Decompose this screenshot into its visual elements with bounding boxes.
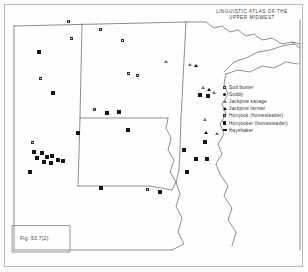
map-marker-filled-square: [45, 155, 48, 158]
map-marker-open-square: [99, 28, 102, 31]
map-marker-filled-square: [158, 190, 161, 193]
map-marker-open-square: [67, 20, 70, 23]
map-marker-filled-square: [35, 156, 38, 159]
map-marker-filled-triangle: [204, 131, 208, 134]
map-marker-filled-square: [76, 131, 79, 134]
northern-lakes-border: [186, 22, 300, 48]
map-marker-filled-square: [49, 161, 52, 164]
missouri-river-sd: [150, 118, 176, 190]
mississippi-lower: [220, 174, 236, 246]
legend-label: Jackpine farmer: [229, 106, 265, 111]
map-marker-filled-square: [182, 148, 185, 151]
legend-symbol-filled-rect-icon: [220, 127, 229, 134]
map-marker-open-square: [127, 72, 130, 75]
map-marker-open-square: [146, 188, 149, 191]
legend-label: Soddy: [229, 92, 243, 97]
map-marker-filled-square: [194, 157, 197, 160]
map-marker-filled-square: [51, 91, 54, 94]
map-marker-filled-square: [198, 93, 201, 96]
map-marker-open-triangle: [203, 118, 207, 121]
map-marker-filled-square: [126, 128, 129, 131]
map-marker-open-square: [31, 141, 34, 144]
legend-symbol-filled-square-icon: [220, 120, 229, 127]
map-title-line2: UPPER MIDWEST: [206, 15, 298, 21]
legend-symbol-open-square-icon: [220, 84, 229, 91]
mn-sd-boundary: [179, 118, 181, 170]
legend-row: Jackpine farmer: [220, 105, 304, 112]
legend-symbol-open-square-icon: [220, 112, 229, 119]
map-marker-open-square: [121, 39, 124, 42]
legend-row: Soddy: [220, 91, 304, 98]
map-marker-open-square: [93, 108, 96, 111]
map-marker-filled-square: [32, 150, 35, 153]
map-marker-filled-square: [40, 151, 43, 154]
legend-label: Jackpine savage: [229, 99, 267, 104]
wy-sd-boundary: [78, 118, 80, 186]
map-marker-filled-square: [206, 94, 209, 97]
map-legend: Sod busterSoddyJackpine savageJackpine f…: [220, 84, 304, 136]
legend-row: Hayshaker: [220, 127, 304, 134]
map-marker-filled-square: [61, 159, 64, 162]
figure-page: LINGUISTIC ATLAS OF THE UPPER MIDWEST So…: [0, 0, 308, 272]
legend-row: Honyock (homesteader): [220, 112, 304, 119]
map-marker-filled-triangle: [194, 64, 198, 67]
map-marker-filled-square: [99, 186, 102, 189]
map-marker-filled-square: [117, 110, 120, 113]
legend-symbol-filled-triangle-icon: [220, 105, 229, 112]
map-marker-filled-square: [205, 157, 208, 160]
map-marker-filled-square: [185, 170, 188, 173]
caption-box: Fig. 53.7(2): [12, 226, 70, 252]
lake-superior-south-shore: [226, 62, 298, 74]
legend-label: Honyock (homesteader): [229, 113, 283, 118]
map-marker-filled-square: [42, 160, 45, 163]
legend-symbol-filled-circle-icon: [220, 91, 229, 98]
map-marker-open-triangle: [201, 86, 205, 89]
map-marker-filled-square: [37, 50, 40, 53]
map-marker-open-square: [136, 74, 139, 77]
legend-row: Sod buster: [220, 84, 304, 91]
legend-label: Sod buster: [229, 85, 254, 90]
map-marker-filled-square: [28, 170, 31, 173]
map-marker-filled-square: [203, 140, 206, 143]
legend-symbol-open-triangle-icon: [220, 98, 229, 105]
map-marker-open-triangle: [215, 132, 219, 135]
map-marker-filled-square: [56, 158, 59, 161]
legend-row: Honyocker (homesteader): [220, 119, 304, 126]
northern-border: [14, 22, 186, 26]
legend-label: Honyocker (homesteader): [229, 121, 288, 126]
mn-nd-boundary: [181, 22, 186, 118]
missouri-river-ne: [172, 182, 184, 250]
map-marker-open-triangle: [164, 60, 168, 63]
map-marker-filled-square: [105, 111, 108, 114]
mn-ia-boundary: [176, 170, 179, 182]
map-marker-filled-triangle: [207, 88, 211, 91]
map-marker-filled-square: [50, 154, 53, 157]
map-title: LINGUISTIC ATLAS OF THE UPPER MIDWEST: [206, 9, 298, 21]
legend-row: Jackpine savage: [220, 98, 304, 105]
legend-label: Hayshaker: [229, 128, 253, 133]
figure-caption: Fig. 53.7(2): [20, 235, 49, 241]
mt-nd-boundary: [80, 24, 82, 118]
map-marker-open-triangle: [212, 91, 216, 94]
map-marker-open-square: [39, 77, 42, 80]
map-marker-open-square: [70, 37, 73, 40]
map-marker-open-triangle: [188, 63, 192, 66]
